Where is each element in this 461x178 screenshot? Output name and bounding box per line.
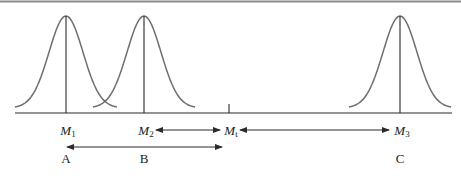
- label-mt-subscript: t: [235, 129, 238, 139]
- label-mt-symbol: M: [224, 123, 235, 138]
- label-m2-subscript: 2: [149, 129, 154, 139]
- label-m3-subscript: 3: [405, 129, 410, 139]
- group-label-c: C: [396, 152, 405, 165]
- label-m1-subscript: 1: [71, 129, 76, 139]
- group-label-a: A: [61, 152, 70, 165]
- label-m1: M1: [60, 124, 75, 139]
- label-m1-symbol: M: [60, 123, 71, 138]
- label-m3-symbol: M: [394, 123, 405, 138]
- group-label-b: B: [140, 152, 149, 165]
- label-m2: M2: [138, 124, 153, 139]
- label-m3: M3: [394, 124, 409, 139]
- label-mt: Mt: [224, 124, 237, 139]
- label-m2-symbol: M: [138, 123, 149, 138]
